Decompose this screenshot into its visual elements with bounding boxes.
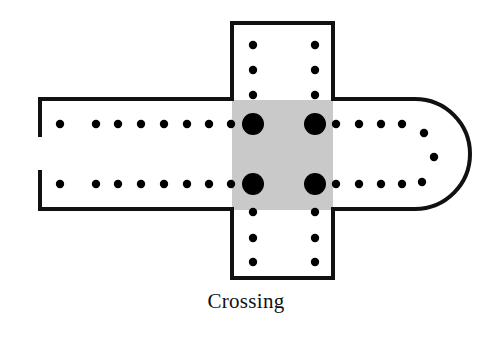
column bbox=[311, 258, 319, 266]
column bbox=[311, 208, 319, 216]
crossing-pier-se bbox=[304, 173, 326, 195]
column bbox=[205, 120, 213, 128]
column bbox=[137, 120, 145, 128]
column bbox=[183, 120, 191, 128]
column bbox=[249, 41, 257, 49]
crossing-pier-ne bbox=[304, 113, 326, 135]
column bbox=[114, 180, 122, 188]
column bbox=[249, 91, 257, 99]
column bbox=[56, 120, 64, 128]
column bbox=[430, 153, 438, 161]
column bbox=[398, 120, 406, 128]
column bbox=[398, 180, 406, 188]
crossing-pier-sw bbox=[242, 173, 264, 195]
column bbox=[227, 180, 235, 188]
column bbox=[249, 234, 257, 242]
column bbox=[355, 120, 363, 128]
column bbox=[227, 120, 235, 128]
column bbox=[249, 66, 257, 74]
column bbox=[377, 120, 385, 128]
column bbox=[249, 258, 257, 266]
apse-ambulatory-columns bbox=[430, 153, 438, 161]
column bbox=[355, 180, 363, 188]
column bbox=[160, 180, 168, 188]
column bbox=[311, 234, 319, 242]
column bbox=[311, 41, 319, 49]
column bbox=[205, 180, 213, 188]
figure-root: Crossing bbox=[0, 0, 492, 342]
column bbox=[418, 178, 426, 186]
column bbox=[183, 180, 191, 188]
column bbox=[332, 120, 340, 128]
column bbox=[377, 180, 385, 188]
column bbox=[92, 180, 100, 188]
column bbox=[311, 91, 319, 99]
column bbox=[160, 120, 168, 128]
column bbox=[137, 180, 145, 188]
column bbox=[92, 120, 100, 128]
crossing-pier-nw bbox=[242, 113, 264, 135]
column bbox=[56, 180, 64, 188]
column bbox=[332, 180, 340, 188]
column bbox=[249, 208, 257, 216]
figure-caption: Crossing bbox=[0, 288, 492, 314]
column bbox=[114, 120, 122, 128]
column bbox=[311, 66, 319, 74]
column bbox=[420, 129, 428, 137]
